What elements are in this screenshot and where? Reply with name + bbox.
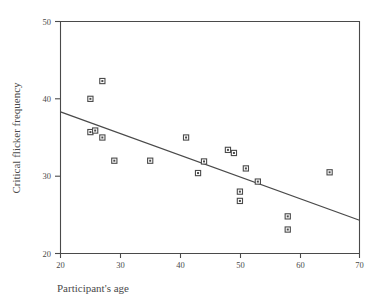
x-tick-label-50: 50 <box>236 260 245 270</box>
y-axis-tick-labels: 50 40 30 20 <box>43 17 52 259</box>
data-point-marker <box>255 179 260 184</box>
data-point-marker <box>237 198 242 203</box>
scatter-plot-figure: 50 40 30 20 20 30 40 50 60 70 Parti <box>0 0 387 308</box>
trend-line-layer <box>61 112 360 220</box>
regression-line <box>61 112 360 220</box>
data-point-marker <box>243 166 248 171</box>
x-tick-label-30: 30 <box>116 260 125 270</box>
plot-canvas: 50 40 30 20 20 30 40 50 60 70 Parti <box>0 0 387 308</box>
data-point-marker <box>100 135 105 140</box>
data-point-marker <box>237 189 242 194</box>
data-point-marker <box>195 170 200 175</box>
x-tick-label-20: 20 <box>56 260 65 270</box>
y-tick-label-50: 50 <box>43 17 52 27</box>
data-point-marker <box>112 158 117 163</box>
data-point-marker <box>225 147 230 152</box>
data-point-marker <box>183 135 188 140</box>
data-point-marker <box>100 78 105 83</box>
y-axis-ticks <box>55 22 60 254</box>
data-point-marker <box>285 227 290 232</box>
y-tick-label-20: 20 <box>43 249 52 259</box>
data-point-marker <box>231 150 236 155</box>
data-point-marker <box>201 159 206 164</box>
x-axis-tick-labels: 20 30 40 50 60 70 <box>56 260 364 270</box>
x-tick-label-60: 60 <box>296 260 305 270</box>
data-point-marker <box>88 96 93 101</box>
data-point-marker <box>93 128 98 133</box>
y-axis-title: Critical flicker frequency <box>10 82 22 194</box>
data-point-marker <box>148 158 153 163</box>
data-points-layer <box>88 78 332 232</box>
data-point-marker <box>327 170 332 175</box>
y-tick-label-30: 30 <box>43 171 52 181</box>
x-tick-label-70: 70 <box>355 260 364 270</box>
x-axis-title: Participant's age <box>57 282 129 294</box>
data-point-marker <box>285 214 290 219</box>
y-tick-label-40: 40 <box>43 94 52 104</box>
x-tick-label-40: 40 <box>176 260 185 270</box>
